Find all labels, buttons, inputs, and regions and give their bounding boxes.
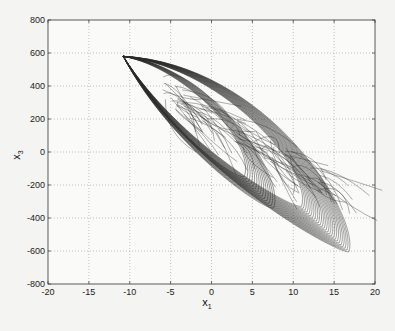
x-axis-label: x1 [202,296,212,310]
x-tick-label: -5 [167,287,175,297]
y-tick-label: 200 [30,114,45,124]
y-tick-labels: -800-600-400-2000200400600800 [27,15,45,289]
y-tick-label: -200 [27,180,45,190]
x-tick-label: 20 [370,287,380,297]
chart: -20-15-10-505101520 -800-600-400-2000200… [0,0,395,331]
x-tick-label: 10 [288,287,298,297]
y-axis-label: x3 [10,150,24,160]
y-tick-label: 800 [30,15,45,25]
x-tick-label: -15 [82,287,95,297]
x-tick-label: 5 [250,287,255,297]
y-tick-label: -400 [27,213,45,223]
x-tick-label: 0 [209,287,214,297]
y-tick-label: 0 [40,147,45,157]
x-tick-label: 15 [329,287,339,297]
y-tick-label: 600 [30,48,45,58]
x-tick-label: -10 [123,287,136,297]
y-tick-label: -800 [27,279,45,289]
y-tick-label: 400 [30,81,45,91]
x-tick-labels: -20-15-10-505101520 [41,287,380,297]
y-tick-label: -600 [27,246,45,256]
